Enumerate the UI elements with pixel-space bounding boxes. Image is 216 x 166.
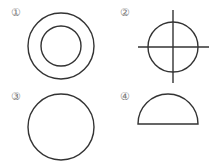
- figure-2-circle-crosshair: [138, 10, 209, 83]
- figure-4-semicircle: [138, 94, 198, 124]
- outer-circle: [28, 13, 94, 79]
- figures-canvas: [0, 0, 216, 166]
- single-circle: [28, 94, 94, 160]
- figure-1-concentric-circles: [28, 13, 94, 79]
- semicircle: [138, 94, 198, 124]
- figure-3-circle: [28, 94, 94, 160]
- inner-circle: [41, 26, 81, 66]
